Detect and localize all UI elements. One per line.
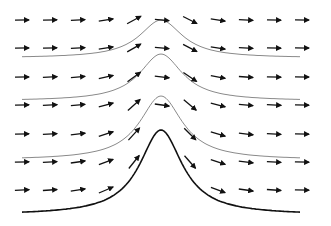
velocity-arrow-icon <box>127 44 141 52</box>
velocity-arrow-icon <box>43 190 57 191</box>
velocity-arrow-icon <box>99 19 113 21</box>
obstacle-boundary <box>22 130 300 212</box>
velocity-arrow-icon <box>267 190 281 191</box>
velocity-arrow-icon <box>127 16 141 24</box>
velocity-arrow-icon <box>211 103 225 107</box>
velocity-arrow-icon <box>239 189 253 191</box>
velocity-arrow-icon <box>211 76 225 79</box>
velocity-arrow-icon <box>239 104 253 105</box>
velocity-arrow-icon <box>155 104 169 106</box>
flow-diagram <box>0 0 331 226</box>
velocity-arrow-icon <box>43 134 57 135</box>
velocity-arrow-icon <box>71 161 85 163</box>
velocity-arrow-icon <box>128 72 141 82</box>
velocity-arrow-icon <box>239 77 253 78</box>
velocity-arrow-icon <box>99 132 113 137</box>
velocity-arrow-icon <box>267 134 281 135</box>
velocity-arrow-icon <box>239 20 253 21</box>
velocity-arrow-icon <box>211 132 225 136</box>
velocity-arrow-icon <box>15 190 29 191</box>
velocity-arrow-icon <box>155 47 169 48</box>
velocity-arrow-icon <box>99 47 113 49</box>
velocity-arrow-icon <box>267 105 281 106</box>
velocity-arrow-icon <box>267 162 281 163</box>
velocity-arrow-icon <box>71 76 85 77</box>
velocity-arrow-icon <box>71 104 85 105</box>
velocity-arrow-icon <box>184 128 196 140</box>
velocity-arrow-icon <box>43 162 57 163</box>
velocity-arrows <box>15 16 309 193</box>
velocity-arrow-icon <box>43 77 57 78</box>
velocity-arrow-icon <box>184 100 196 110</box>
velocity-arrow-icon <box>71 133 85 135</box>
velocity-arrow-icon <box>211 47 225 49</box>
velocity-arrow-icon <box>185 156 196 169</box>
velocity-arrow-icon <box>128 100 140 111</box>
velocity-arrow-icon <box>99 159 113 164</box>
velocity-arrow-icon <box>211 187 225 192</box>
velocity-arrow-icon <box>239 133 253 135</box>
velocity-arrow-icon <box>155 76 169 78</box>
velocity-arrow-icon <box>211 160 225 165</box>
velocity-arrow-icon <box>99 103 113 107</box>
velocity-arrow-icon <box>239 48 253 49</box>
velocity-arrow-icon <box>183 17 197 24</box>
streamlines <box>22 20 300 212</box>
velocity-arrow-icon <box>71 189 85 191</box>
velocity-arrow-icon <box>99 187 113 193</box>
velocity-arrow-icon <box>71 48 85 49</box>
streamline <box>22 20 300 57</box>
velocity-arrow-icon <box>43 105 57 106</box>
velocity-arrow-icon <box>99 75 113 78</box>
velocity-arrow-icon <box>71 20 85 21</box>
velocity-arrow-icon <box>183 44 197 51</box>
velocity-arrow-icon <box>239 161 253 163</box>
velocity-arrow-icon <box>211 19 225 21</box>
